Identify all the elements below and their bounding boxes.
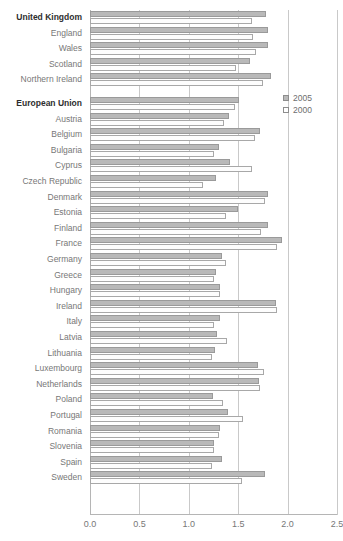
bar-2000 xyxy=(90,260,226,266)
bar-row xyxy=(90,269,337,285)
bar-row xyxy=(90,11,337,27)
category-label: Cyprus xyxy=(55,161,82,170)
bar-2005 xyxy=(90,393,213,399)
bar-row xyxy=(90,175,337,191)
bar-2005 xyxy=(90,315,220,321)
bar-2005 xyxy=(90,300,276,306)
bar-row xyxy=(90,253,337,269)
bar-row xyxy=(90,206,337,222)
category-label: France xyxy=(56,239,82,248)
category-label: Latvia xyxy=(59,333,82,342)
bar-2000 xyxy=(90,322,214,328)
bar-2000 xyxy=(90,34,253,40)
plot-area xyxy=(90,10,337,515)
bar-2000 xyxy=(90,307,277,313)
bar-2005 xyxy=(90,206,238,212)
x-tick-label: 2.0 xyxy=(281,519,294,529)
bar-2000 xyxy=(90,432,219,438)
bar-2005 xyxy=(90,42,268,48)
chart-legend: 20052000 xyxy=(283,92,312,116)
bar-row xyxy=(90,300,337,316)
bar-2000 xyxy=(90,120,224,126)
category-label: Denmark xyxy=(48,193,82,202)
bar-row xyxy=(90,27,337,43)
category-label: Romania xyxy=(48,427,82,436)
bar-2005 xyxy=(90,27,268,33)
bar-2000 xyxy=(90,338,227,344)
bar-row xyxy=(90,315,337,331)
bar-2000 xyxy=(90,166,252,172)
bar-2000 xyxy=(90,385,260,391)
category-axis-labels: United KingdomEnglandWalesScotlandNorthe… xyxy=(0,10,86,515)
gridline-2-5 xyxy=(337,10,338,515)
bar-row xyxy=(90,222,337,238)
bar-2005 xyxy=(90,159,230,165)
bar-row xyxy=(90,58,337,74)
bar-2005 xyxy=(90,440,214,446)
bar-row xyxy=(90,393,337,409)
category-label: England xyxy=(51,29,82,38)
category-label: Italy xyxy=(66,317,82,326)
category-label: Finland xyxy=(54,224,82,233)
bar-2005 xyxy=(90,362,258,368)
category-label: Germany xyxy=(47,255,82,264)
legend-swatch-icon xyxy=(283,107,289,113)
category-label: Northern Ireland xyxy=(21,75,82,84)
bar-row xyxy=(90,42,337,58)
category-label: Portugal xyxy=(50,411,82,420)
bar-2005 xyxy=(90,222,268,228)
legend-label: 2005 xyxy=(293,92,312,104)
bar-2005 xyxy=(90,253,222,259)
bar-rows xyxy=(90,10,337,515)
bar-2005 xyxy=(90,471,265,477)
legend-item[interactable]: 2000 xyxy=(283,104,312,116)
category-label: Ireland xyxy=(56,302,82,311)
bar-2000 xyxy=(90,291,220,297)
category-label: Sweden xyxy=(51,473,82,482)
bar-row xyxy=(90,440,337,456)
bar-2005 xyxy=(90,331,217,337)
category-label: Estonia xyxy=(54,208,82,217)
bar-2005 xyxy=(90,144,219,150)
x-axis-line xyxy=(90,514,337,515)
category-label: Spain xyxy=(60,458,82,467)
bar-row xyxy=(90,159,337,175)
bar-2005 xyxy=(90,113,229,119)
bar-row xyxy=(90,425,337,441)
category-label: Belgium xyxy=(51,130,82,139)
bar-2005 xyxy=(90,191,268,197)
bar-row xyxy=(90,409,337,425)
x-tick-label: 1.5 xyxy=(232,519,245,529)
bar-2000 xyxy=(90,104,235,110)
bar-2000 xyxy=(90,65,236,71)
bar-2000 xyxy=(90,229,261,235)
bar-2000 xyxy=(90,447,214,453)
bar-row xyxy=(90,237,337,253)
category-label: Netherlands xyxy=(36,380,82,389)
category-label: Czech Republic xyxy=(22,177,82,186)
bar-row xyxy=(90,456,337,472)
legend-item[interactable]: 2005 xyxy=(283,92,312,104)
bar-2005 xyxy=(90,425,220,431)
bar-2005 xyxy=(90,378,259,384)
bar-row xyxy=(90,128,337,144)
bar-2005 xyxy=(90,269,216,275)
bar-row xyxy=(90,284,337,300)
category-label: European Union xyxy=(16,99,82,108)
bar-2000 xyxy=(90,478,242,484)
bar-row xyxy=(90,347,337,363)
category-label: Greece xyxy=(54,271,82,280)
legend-swatch-icon xyxy=(283,95,289,101)
bar-2005 xyxy=(90,409,228,415)
category-label: Bulgaria xyxy=(51,146,82,155)
bar-2005 xyxy=(90,456,222,462)
x-tick-label: 1.0 xyxy=(183,519,196,529)
bar-row xyxy=(90,362,337,378)
bar-2005 xyxy=(90,237,282,243)
bar-2000 xyxy=(90,49,256,55)
bar-2000 xyxy=(90,80,263,86)
bar-2005 xyxy=(90,73,271,79)
bar-2000 xyxy=(90,135,255,141)
bar-2000 xyxy=(90,400,223,406)
